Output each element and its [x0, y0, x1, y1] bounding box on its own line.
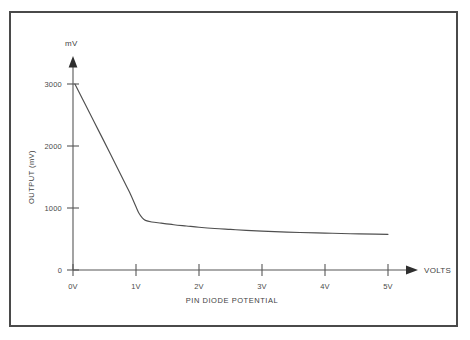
x-tick-label-3v: 3V [257, 282, 267, 291]
x-axis-arrow-icon [406, 265, 418, 274]
y-axis-unit-label: mV [65, 39, 78, 48]
y-axis-arrow-icon [69, 56, 78, 68]
y-tick-label-1000: 1000 [45, 204, 63, 213]
x-axis-unit-label: VOLTS [424, 266, 451, 275]
y-tick-label-0: 0 [58, 266, 62, 275]
data-series-line [75, 84, 388, 234]
y-tick-label-2000: 2000 [45, 142, 63, 151]
x-tick-label-4v: 4V [320, 282, 330, 291]
x-tick-label-2v: 2V [194, 282, 204, 291]
chart-plot-area: 0 1000 2000 3000 mV OUTPUT (mV) 0V 1V 2V… [0, 0, 470, 340]
y-tick-label-3000: 3000 [45, 80, 63, 89]
y-axis-title: OUTPUT (mV) [27, 150, 36, 204]
x-tick-label-5v: 5V [383, 282, 393, 291]
x-tick-label-1v: 1V [131, 282, 141, 291]
x-axis-title: PIN DIODE POTENTIAL [186, 296, 279, 305]
x-tick-label-0v: 0V [68, 282, 78, 291]
figure-root: 0 1000 2000 3000 mV OUTPUT (mV) 0V 1V 2V… [0, 0, 470, 340]
